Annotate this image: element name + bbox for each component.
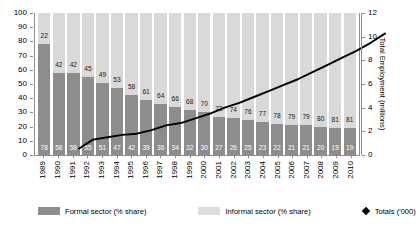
x-axis-tickmark [146,155,147,158]
bar-column[interactable]: 5842 [125,13,137,155]
y-axis-left-tickmark [30,98,33,99]
bar-label-informal: 73 [215,106,222,113]
legend-item-totals: Totals ('000) [361,207,416,216]
bar-column[interactable]: 7426 [227,13,239,155]
bar-column[interactable]: 8119 [329,13,341,155]
x-axis-tick-label: 2006 [288,161,296,179]
x-axis-tickmark [263,155,264,158]
x-axis-tick-label: 1994 [113,161,121,179]
x-axis-tick-label: 2009 [332,161,340,179]
bar-label-informal: 49 [99,72,106,79]
bar-segment-informal[interactable] [344,13,356,128]
bar-segment-informal[interactable] [300,13,312,125]
bar-column[interactable]: 7625 [242,13,254,155]
bar-segment-formal[interactable] [82,77,94,155]
bar-segment-informal[interactable] [329,13,341,128]
x-axis-tick-labels: 1989199019911992199319941995199619971998… [34,155,360,197]
bar-column[interactable]: 4258 [67,13,79,155]
bar-label-formal: 21 [288,145,295,152]
bar-column[interactable]: 4258 [53,13,65,155]
bar-column[interactable]: 7921 [300,13,312,155]
bar-column[interactable]: 6436 [154,13,166,155]
x-axis-tick-label: 2002 [230,161,238,179]
bar-column[interactable]: 7822 [271,13,283,155]
bar-label-formal: 19 [332,145,339,152]
x-tick-column: 2006 [286,155,298,197]
y-axis-left-tickmark [30,112,33,113]
bar-segment-informal[interactable] [227,13,239,118]
bar-label-formal: 42 [128,145,135,152]
bar-label-formal: 30 [201,145,208,152]
y-axis-right-tick: 8 [368,56,372,64]
bar-column[interactable]: 7723 [256,13,268,155]
chart-legend: Formal sector (% share) Informal sector … [34,203,380,219]
x-axis-tickmark [204,155,205,158]
bar-column[interactable]: 7327 [213,13,225,155]
y-axis-right-tickmark [362,84,365,85]
bar-segment-informal[interactable] [184,13,196,110]
x-axis-tick-label: 2005 [274,161,282,179]
x-axis-tick-label: 2010 [347,161,355,179]
bar-segment-informal[interactable] [285,13,297,125]
bar-segment-informal[interactable] [154,13,166,104]
x-axis-tick-label: 1997 [156,161,164,179]
bar-label-informal: 58 [128,84,135,91]
x-tick-column: 2007 [301,155,313,197]
x-axis-tickmark [351,155,352,158]
x-axis-tickmark [336,155,337,158]
bar-segment-informal[interactable] [213,13,225,117]
x-axis-tickmark [43,155,44,158]
x-tick-column: 1995 [125,155,137,197]
bar-segment-informal[interactable] [314,13,326,127]
x-axis-tick-label: 2003 [244,161,252,179]
bar-segment-informal[interactable] [169,13,181,107]
y-axis-left-tickmark [30,155,33,156]
x-tick-column: 2005 [271,155,283,197]
x-axis-tickmark [278,155,279,158]
bar-segment-informal[interactable] [242,13,254,120]
bar-segment-formal[interactable] [67,73,79,155]
bar-column[interactable]: 8020 [314,13,326,155]
bar-label-formal: 23 [259,145,266,152]
bar-label-informal: 70 [201,101,208,108]
x-tick-column: 1997 [154,155,166,197]
y-axis-left-tickmark [30,41,33,42]
x-axis-tickmark [87,155,88,158]
x-tick-column: 2010 [345,155,357,197]
bar-label-informal: 53 [113,77,120,84]
bar-column[interactable]: 6634 [169,13,181,155]
y-axis-right-tick: 2 [368,127,372,135]
legend-item-formal: Formal sector (% share) [38,207,146,216]
bar-column[interactable]: 2278 [38,13,50,155]
bar-column[interactable]: 4951 [96,13,108,155]
x-tick-column: 2008 [315,155,327,197]
y-axis-left-tick: 50 [18,80,27,88]
bar-column[interactable]: 7921 [285,13,297,155]
y-axis-left-tickmark [30,141,33,142]
bar-label-formal: 20 [317,145,324,152]
x-axis-tickmark [102,155,103,158]
bar-segment-formal[interactable] [38,44,50,155]
x-tick-column: 1994 [110,155,122,197]
bar-label-informal: 80 [317,116,324,123]
bar-segment-informal[interactable] [256,13,268,122]
bar-label-informal: 45 [84,66,91,73]
bar-column[interactable]: 6832 [184,13,196,155]
bar-column[interactable]: 5347 [111,13,123,155]
bar-segment-informal[interactable] [198,13,210,112]
x-axis-tickmark [131,155,132,158]
bar-segment-informal[interactable] [271,13,283,124]
bar-column[interactable]: 4555 [82,13,94,155]
bar-column[interactable]: 7030 [198,13,210,155]
y-axis-right-title: Total Employment (millions) [373,13,387,155]
bar-column[interactable]: 6139 [140,13,152,155]
x-axis-tickmark [292,155,293,158]
y-axis-left-tick: 30 [18,108,27,116]
bar-label-formal: 58 [70,145,77,152]
y-axis-left-tickmark [30,84,33,85]
bar-column[interactable]: 8119 [344,13,356,155]
bar-segment-formal[interactable] [53,73,65,155]
x-tick-column: 2001 [213,155,225,197]
x-axis-tick-label: 2007 [303,161,311,179]
x-tick-column: 2002 [227,155,239,197]
